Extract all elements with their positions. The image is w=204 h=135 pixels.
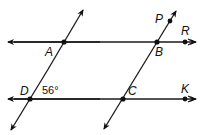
- point-c: [120, 96, 125, 101]
- label-k: K: [181, 82, 190, 96]
- point-k: [183, 97, 188, 102]
- label-a: A: [44, 45, 53, 59]
- label-c: C: [128, 84, 137, 98]
- label-r: R: [181, 24, 190, 38]
- angle-label-d: 56°: [42, 84, 59, 96]
- label-d: D: [20, 84, 29, 98]
- point-a: [61, 39, 66, 44]
- diagram-canvas: A B C D P R K 56°: [0, 0, 204, 135]
- geometry-diagram: A B C D P R K 56°: [0, 0, 204, 135]
- label-b: B: [155, 45, 163, 59]
- point-r: [183, 40, 188, 45]
- point-p: [168, 19, 173, 24]
- label-p: P: [155, 12, 163, 26]
- point-b: [154, 39, 159, 44]
